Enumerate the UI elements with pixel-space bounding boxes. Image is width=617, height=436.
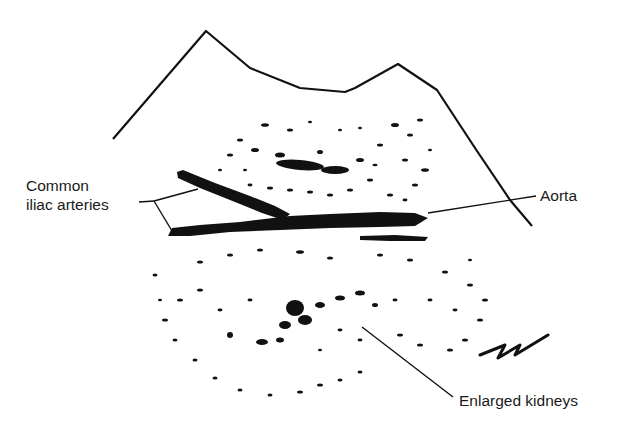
ultrasound-drawing xyxy=(0,0,617,436)
kidneys-leader xyxy=(362,327,453,397)
iliac-leader-main xyxy=(139,201,154,202)
aorta-label: Aorta xyxy=(540,186,577,205)
iliac-leader-upper xyxy=(154,189,198,201)
upper-kidney xyxy=(218,119,432,202)
aorta-vessel xyxy=(168,212,428,236)
common-iliac-artery-upper xyxy=(177,170,290,220)
common-iliac-label-line1: Common xyxy=(26,176,109,195)
common-iliac-label: Common iliac arteries xyxy=(26,176,109,214)
vessels xyxy=(168,170,428,241)
scan-field-outline xyxy=(113,31,532,226)
artefact-squiggle xyxy=(480,335,548,358)
diagram-canvas: Common iliac arteries Aorta Enlarged kid… xyxy=(0,0,617,436)
lower-kidney xyxy=(153,248,489,396)
enlarged-kidneys-label: Enlarged kidneys xyxy=(459,391,578,410)
iliac-leader-lower xyxy=(154,201,175,236)
common-iliac-label-line2: iliac arteries xyxy=(26,195,109,214)
minor-vessel xyxy=(360,235,428,241)
